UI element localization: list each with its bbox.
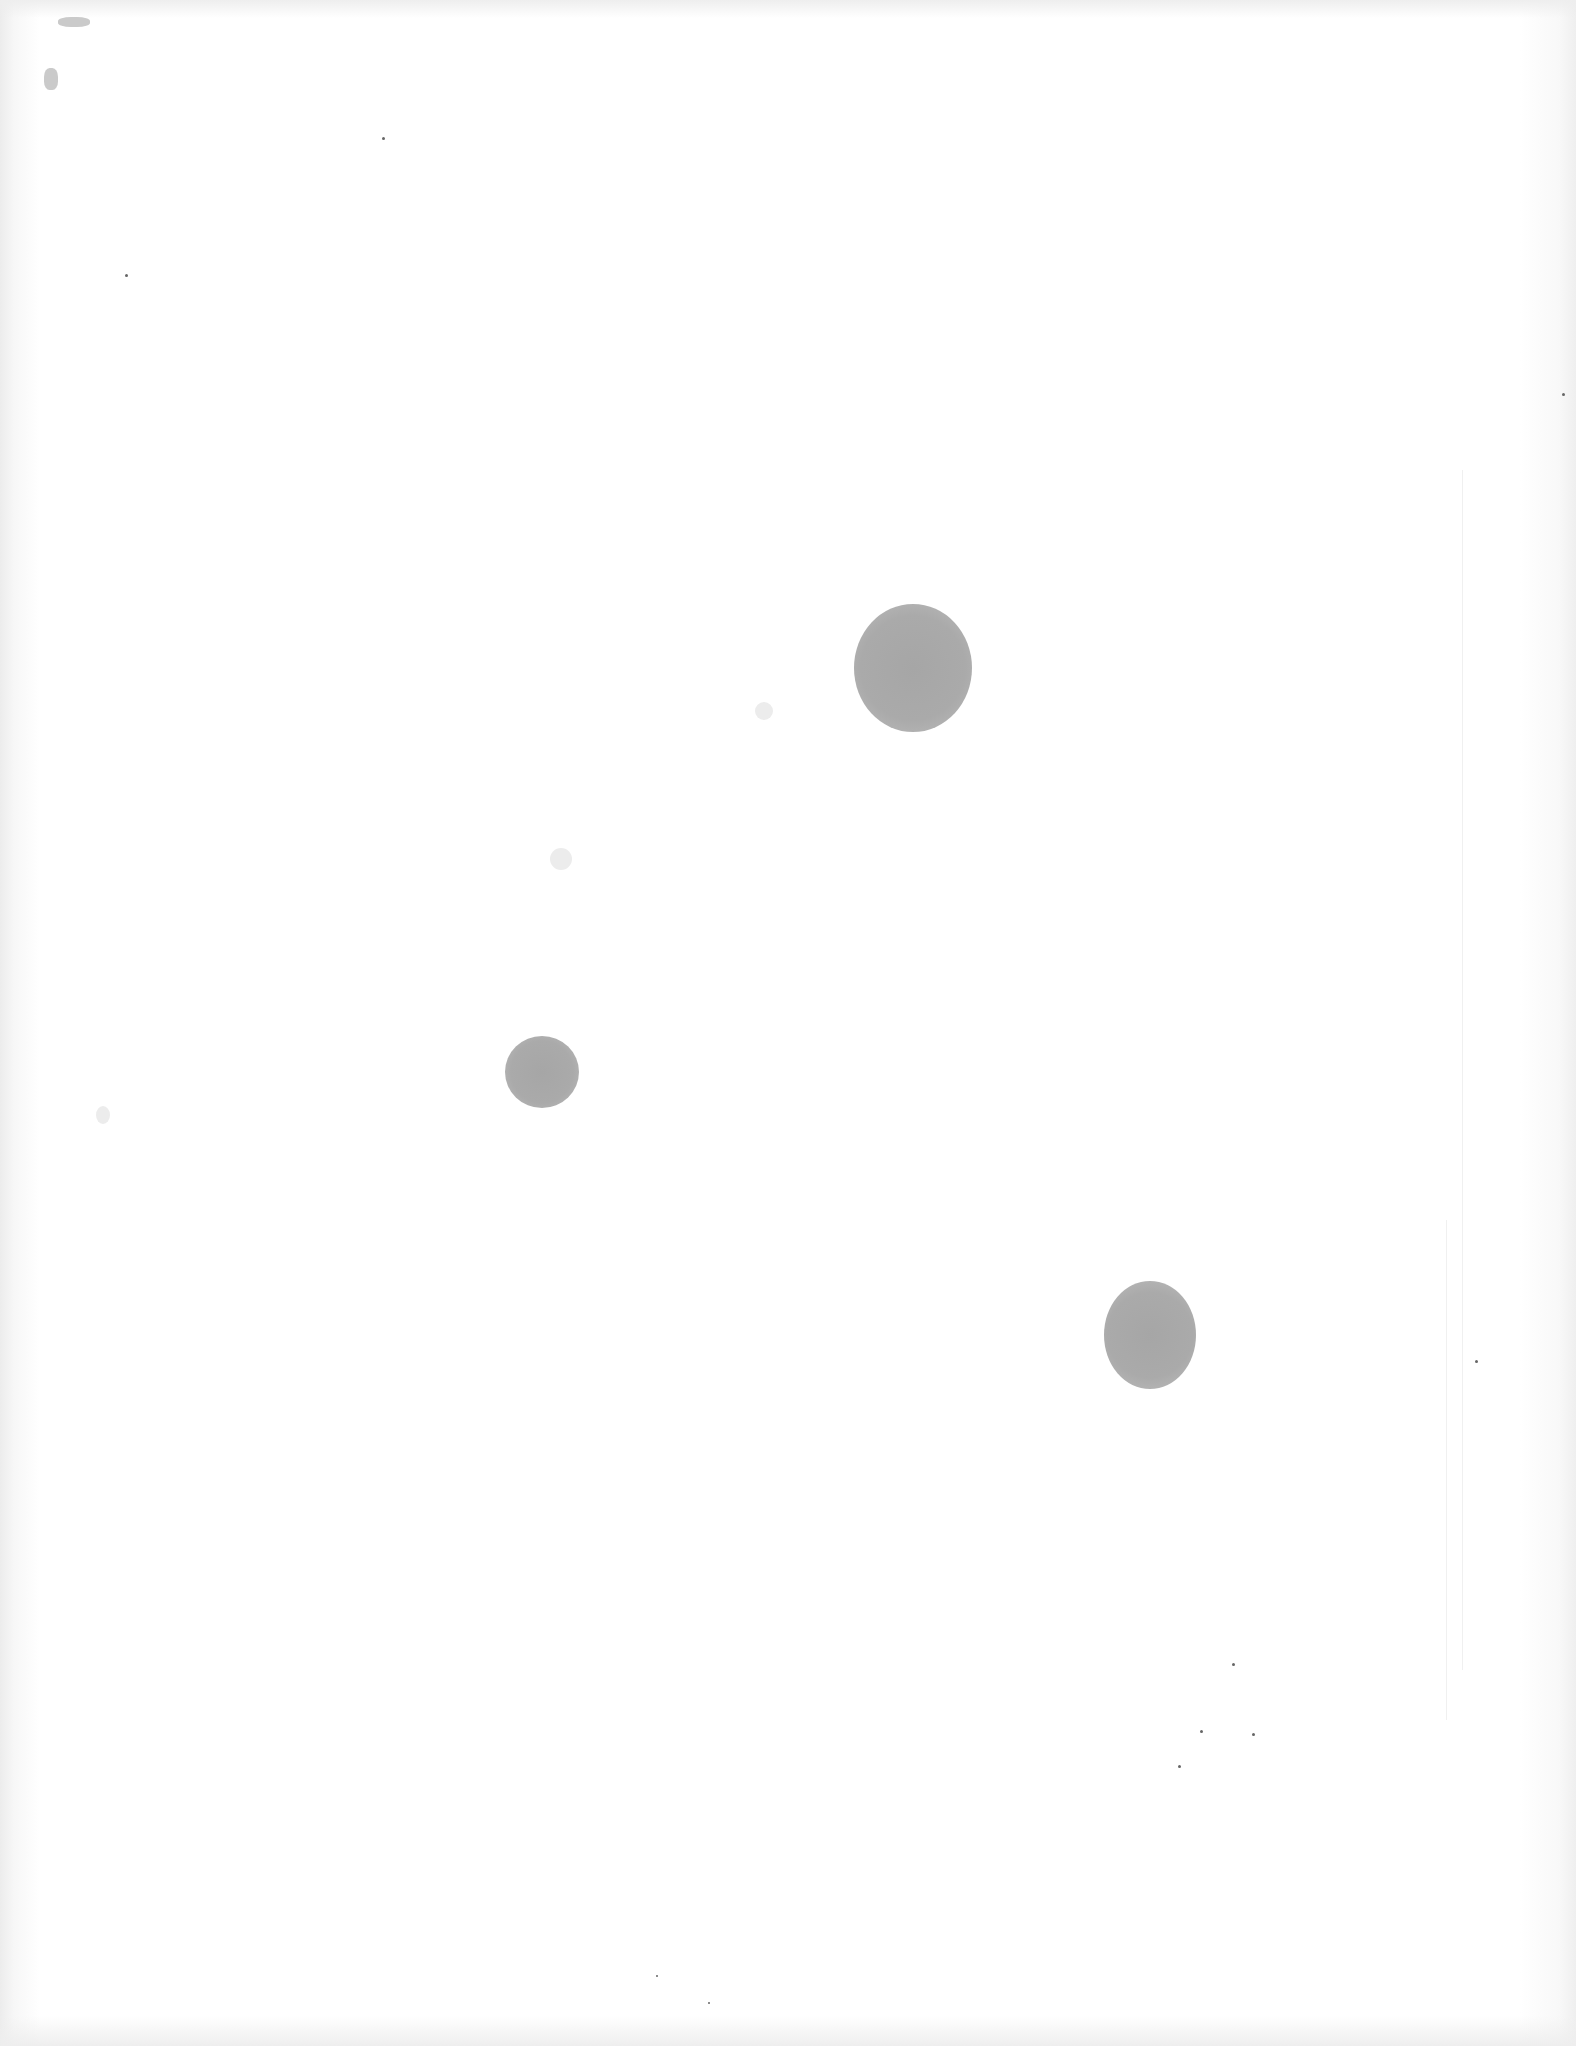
- dust-speck: [1200, 1730, 1203, 1733]
- scan-edge-line: [1462, 470, 1463, 1670]
- large-blot: [854, 604, 972, 732]
- dust-speck: [1475, 1360, 1478, 1363]
- faint-spot: [550, 848, 572, 870]
- dust-speck: [382, 137, 385, 140]
- dust-speck: [656, 1975, 658, 1977]
- faint-spot: [96, 1106, 110, 1124]
- dust-speck: [1562, 393, 1565, 396]
- scan-edge-line: [1446, 1220, 1447, 1720]
- oval-blot: [1104, 1281, 1196, 1389]
- dust-speck: [1252, 1733, 1255, 1736]
- scanned-page: [0, 0, 1576, 2046]
- medium-blot: [505, 1036, 579, 1108]
- dust-speck: [125, 274, 128, 277]
- faint-spot: [755, 702, 773, 720]
- dust-speck: [1178, 1765, 1181, 1768]
- dust-speck: [1232, 1663, 1235, 1666]
- scan-smudge: [58, 17, 90, 27]
- dust-speck: [708, 2002, 710, 2004]
- scan-smudge: [44, 68, 58, 90]
